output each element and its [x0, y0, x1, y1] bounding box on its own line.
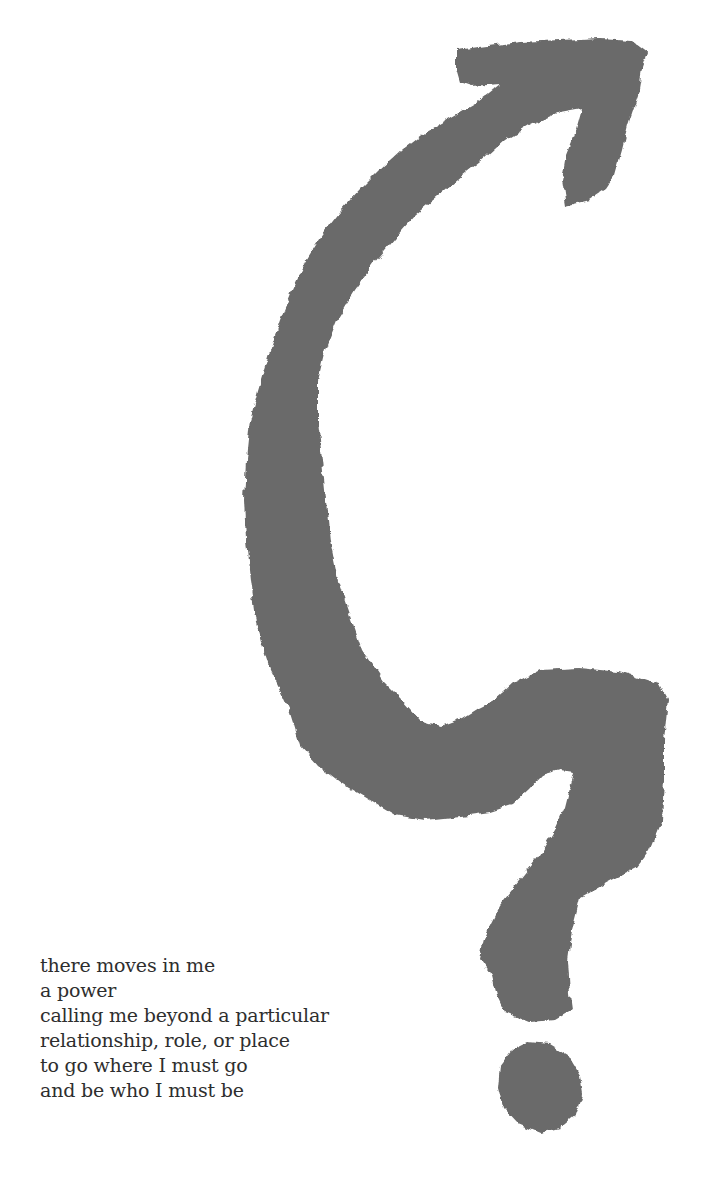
question-mark-dot-icon: [498, 1042, 583, 1133]
poem-line: calling me beyond a particular: [40, 1003, 329, 1028]
poem-line: a power: [40, 978, 329, 1003]
poem-text: there moves in me a power calling me bey…: [40, 953, 329, 1103]
poem-line: relationship, role, or place: [40, 1028, 329, 1053]
poem-line: to go where I must go: [40, 1053, 329, 1078]
arrow-head-icon: [244, 38, 668, 1022]
poem-line: and be who I must be: [40, 1078, 329, 1103]
poem-line: there moves in me: [40, 953, 329, 978]
